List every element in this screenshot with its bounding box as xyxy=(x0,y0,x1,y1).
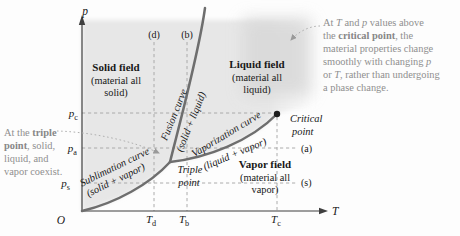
svg-text:point, solid,: point, solid, xyxy=(4,140,55,151)
svg-text:At the triple: At the triple xyxy=(4,127,57,138)
t-axis-arrow-icon xyxy=(319,208,328,214)
svg-text:At T and p values above: At T and p values above xyxy=(323,17,424,28)
svg-text:Solid field: Solid field xyxy=(92,61,139,73)
svg-text:vapor coexist.: vapor coexist. xyxy=(4,166,62,177)
critical-point-marker xyxy=(274,111,280,117)
tick-ps: ps xyxy=(60,177,70,192)
svg-text:Triple: Triple xyxy=(178,164,203,175)
tick-pc: pc xyxy=(68,107,79,122)
phase-diagram-figure: p T O pc pa ps Td Tb Tc (d) (b) (a) (s) … xyxy=(0,0,460,236)
svg-text:liquid): liquid) xyxy=(243,84,270,96)
tick-td: Td xyxy=(146,213,156,228)
tag-d: (d) xyxy=(148,29,160,41)
vapor-field-label: Vapor field (material all vapor) xyxy=(239,158,291,196)
svg-text:vapor): vapor) xyxy=(252,184,279,196)
tick-pa: pa xyxy=(67,142,78,157)
svg-text:(material all: (material all xyxy=(91,75,141,87)
svg-text:the critical point, the: the critical point, the xyxy=(323,30,413,41)
t-axis-label: T xyxy=(332,205,340,217)
svg-text:point: point xyxy=(291,126,314,137)
svg-text:a phase change.: a phase change. xyxy=(323,82,388,93)
svg-text:material properties change: material properties change xyxy=(323,43,434,54)
phase-diagram-canvas: p T O pc pa ps Td Tb Tc (d) (b) (a) (s) … xyxy=(0,0,460,236)
svg-text:smoothly with changing p: smoothly with changing p xyxy=(323,56,431,67)
origin-label: O xyxy=(57,214,66,226)
svg-text:(material all: (material all xyxy=(240,172,290,184)
tick-tb: Tb xyxy=(179,213,189,228)
tag-a: (a) xyxy=(301,143,312,155)
tick-tc: Tc xyxy=(271,213,281,228)
triple-point-label: Triple point xyxy=(177,164,202,188)
critical-point-label: Critical point xyxy=(290,113,322,137)
triple-point-note: At the triple point, solid, liquid, and … xyxy=(4,127,62,177)
svg-text:liquid, and: liquid, and xyxy=(4,153,49,164)
tag-b: (b) xyxy=(181,29,193,41)
svg-text:solid): solid) xyxy=(104,87,127,99)
svg-text:Critical: Critical xyxy=(290,113,322,124)
svg-text:point: point xyxy=(177,177,200,188)
critical-point-note: At T and p values above the critical poi… xyxy=(323,17,440,93)
svg-text:Liquid field: Liquid field xyxy=(229,58,284,70)
p-axis-label: p xyxy=(81,5,88,18)
svg-text:Vapor field: Vapor field xyxy=(239,158,291,170)
svg-text:or T, rather than undergoing: or T, rather than undergoing xyxy=(323,69,440,80)
svg-text:(material all: (material all xyxy=(232,72,282,84)
tag-s: (s) xyxy=(301,177,312,189)
